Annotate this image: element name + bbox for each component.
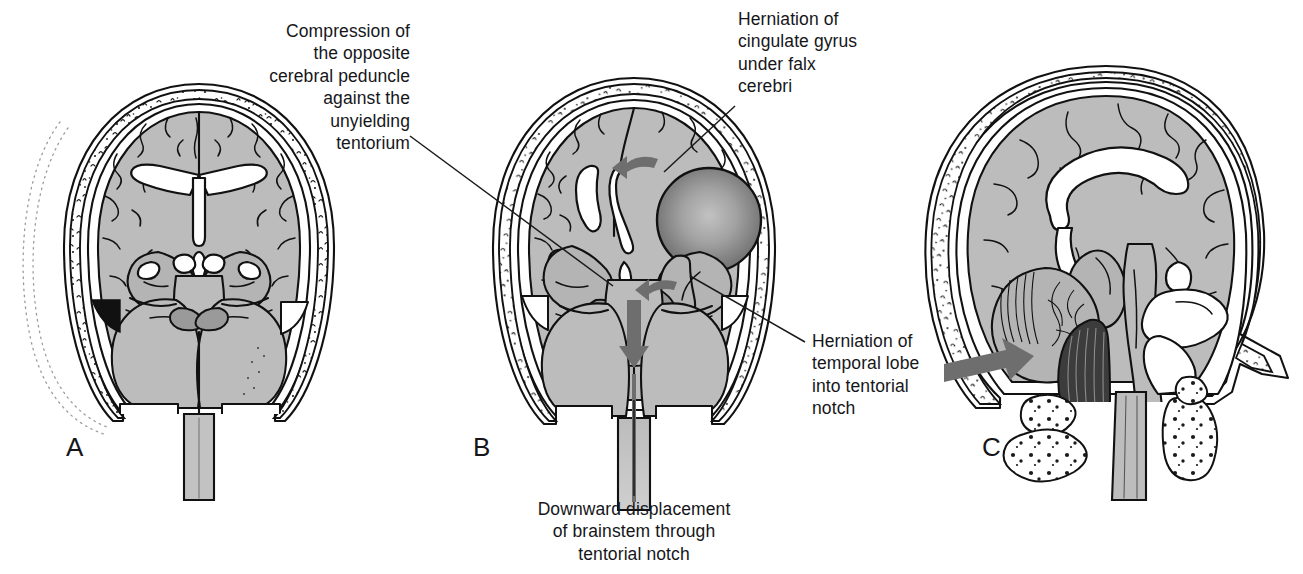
panel-label-a: A — [66, 432, 83, 463]
upper-clivus-bone-c — [1176, 377, 1207, 404]
callout-brainstem-displacement: Downward displacement of brainstem throu… — [481, 498, 787, 565]
figure-canvas: Compression of the opposite cerebral ped… — [0, 0, 1303, 574]
panel-label-b: B — [473, 432, 490, 463]
callout-cingulate-herniation: Herniation of cingulate gyrus under falx… — [738, 8, 938, 98]
brain-tissue-a — [92, 112, 308, 420]
callout-temporal-herniation: Herniation of temporal lobe into tentori… — [812, 330, 1002, 420]
callout-compression-peduncle: Compression of the opposite cerebral ped… — [196, 20, 410, 154]
panel-label-c: C — [982, 432, 1001, 463]
spinal-cord-c — [1112, 392, 1146, 500]
c1-bone-c — [1004, 430, 1087, 482]
panel-c-illustration — [925, 66, 1288, 500]
clivus-bone-c — [1163, 397, 1218, 481]
brain-tissue-b — [522, 108, 761, 424]
